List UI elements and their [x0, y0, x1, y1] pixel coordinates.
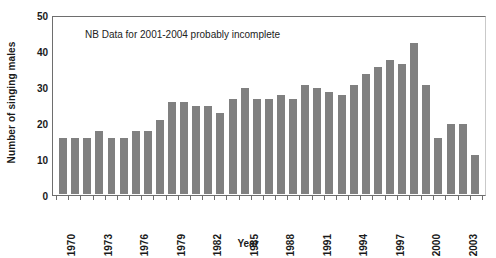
bar-slot [118, 18, 130, 194]
bar-slot [445, 18, 457, 194]
plot-area: NB Data for 2001-2004 probably incomplet… [52, 16, 486, 196]
bar-slot [57, 18, 69, 194]
y-axis-tick-label: 0 [22, 191, 48, 202]
bar [168, 102, 176, 194]
bar-slot [93, 18, 105, 194]
bar-slot [396, 18, 408, 194]
bar [59, 138, 67, 194]
bar [386, 60, 394, 194]
bar-slot [227, 18, 239, 194]
y-axis-tick-label: 10 [22, 155, 48, 166]
bar [471, 155, 479, 194]
x-axis-tick [80, 196, 81, 200]
x-axis-tick [433, 196, 434, 200]
bar-slot [239, 18, 251, 194]
bar [265, 99, 273, 194]
x-axis-title: Year [0, 238, 496, 249]
x-axis-tick [202, 196, 203, 200]
x-axis-tick [166, 196, 167, 200]
x-axis-tick [445, 196, 446, 200]
x-axis-tick [409, 196, 410, 200]
bar-slot [275, 18, 287, 194]
bar [325, 92, 333, 194]
y-axis-tick-label: 40 [22, 47, 48, 58]
x-axis-tick [275, 196, 276, 200]
bar-slot [214, 18, 226, 194]
bar [410, 43, 418, 194]
bar-slot [420, 18, 432, 194]
bar [156, 120, 164, 194]
x-axis-tick [385, 196, 386, 200]
x-axis-tick [482, 196, 483, 200]
bar-slot [469, 18, 481, 194]
bar [350, 85, 358, 194]
x-axis-tick [251, 196, 252, 200]
bar-slot [408, 18, 420, 194]
bar [71, 138, 79, 194]
x-axis-tick-labels: 1970197319761979198219851988199119941997… [52, 202, 486, 236]
bar-slot [372, 18, 384, 194]
x-axis-tick [141, 196, 142, 200]
bar-slot [154, 18, 166, 194]
y-axis-title: Number of singing males [0, 0, 24, 205]
x-axis-tick [336, 196, 337, 200]
bar [459, 124, 467, 194]
bar [277, 95, 285, 194]
x-axis-tick [324, 196, 325, 200]
x-axis-tick [117, 196, 118, 200]
bar [83, 138, 91, 194]
x-axis-tick [360, 196, 361, 200]
bar-slot [287, 18, 299, 194]
bar-slot [69, 18, 81, 194]
bar [132, 131, 140, 194]
x-axis-tick [105, 196, 106, 200]
bar-slot [251, 18, 263, 194]
bar-slot [311, 18, 323, 194]
bar-series [54, 18, 484, 194]
bar [301, 85, 309, 194]
bar [95, 131, 103, 194]
x-axis-tick [226, 196, 227, 200]
x-axis-tick [56, 196, 57, 200]
bar [362, 74, 370, 194]
bar [313, 88, 321, 194]
bar [241, 88, 249, 194]
x-axis-tick [214, 196, 215, 200]
bar [338, 95, 346, 194]
x-axis-tick [68, 196, 69, 200]
x-axis-tick [299, 196, 300, 200]
bar [229, 99, 237, 194]
bar-slot [202, 18, 214, 194]
bar-slot [299, 18, 311, 194]
y-axis-title-text: Number of singing males [7, 42, 18, 164]
x-axis-tick [312, 196, 313, 200]
bar [398, 64, 406, 194]
bar [434, 138, 442, 194]
x-axis-ticks [52, 196, 486, 201]
x-axis-tick [458, 196, 459, 200]
bar-slot [263, 18, 275, 194]
y-axis-tick-label: 20 [22, 119, 48, 130]
bar [108, 138, 116, 194]
bar-slot [323, 18, 335, 194]
x-axis-tick [263, 196, 264, 200]
x-axis-tick [348, 196, 349, 200]
bar [144, 131, 152, 194]
bar-slot [384, 18, 396, 194]
x-axis-tick [178, 196, 179, 200]
bar-slot [360, 18, 372, 194]
bar [374, 67, 382, 194]
x-axis-tick [421, 196, 422, 200]
bar-slot [348, 18, 360, 194]
bar [204, 106, 212, 194]
bar [422, 85, 430, 194]
x-axis-tick [287, 196, 288, 200]
bar [289, 99, 297, 194]
x-axis-tick [397, 196, 398, 200]
bar-slot [432, 18, 444, 194]
bar-slot [81, 18, 93, 194]
bar [180, 102, 188, 194]
bar [216, 113, 224, 194]
x-axis-tick [129, 196, 130, 200]
bar-slot [190, 18, 202, 194]
